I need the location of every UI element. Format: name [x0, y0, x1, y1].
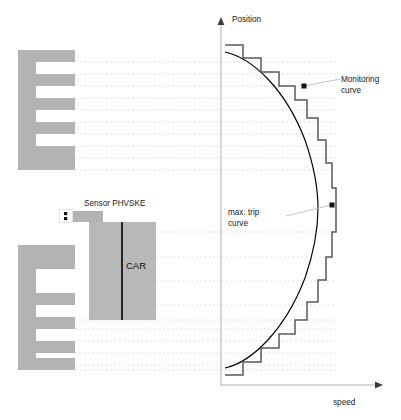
position-axis-label: Position	[232, 15, 262, 24]
max-trip-curve-label-line2: curve	[228, 219, 248, 228]
comb-tooth	[18, 245, 75, 269]
upper-shaft-comb	[18, 50, 75, 170]
comb-tooth	[18, 122, 75, 134]
callout-marker-icon	[330, 203, 335, 208]
comb-tooth	[18, 50, 75, 62]
comb-tooth	[18, 293, 75, 305]
monitoring-curve-callout: Monitoring curve	[302, 75, 380, 95]
sensor-label: Sensor PHVSKE	[84, 199, 146, 208]
comb-tooth	[18, 74, 75, 86]
sensor-assembly	[60, 210, 104, 223]
sensor-box	[60, 210, 73, 223]
monitoring-curve-label-line1: Monitoring	[341, 75, 380, 84]
monitoring-curve-label-line2: curve	[341, 86, 361, 95]
callout-marker-icon	[302, 84, 307, 89]
speed-axis-label: speed	[333, 398, 356, 407]
comb-tooth	[18, 341, 75, 353]
callout-leader-line	[304, 79, 340, 86]
comb-tooth	[18, 317, 75, 329]
lower-shaft-comb	[18, 245, 75, 370]
comb-tooth	[18, 98, 75, 110]
car-label: CAR	[126, 260, 146, 271]
sensor-dot-upper-icon	[64, 212, 67, 215]
speed-axis-arrowhead-icon	[375, 382, 383, 389]
gridlines	[75, 62, 336, 370]
sensor-bar	[73, 211, 103, 222]
callout-leader-line	[286, 205, 331, 216]
elevator-car	[89, 222, 156, 320]
position-axis-arrowhead-icon	[218, 17, 225, 25]
comb-tooth	[18, 146, 75, 170]
comb-tooth	[18, 358, 75, 370]
elevator-monitoring-diagram: Monitoring curve max. trip curve Positio…	[0, 0, 401, 420]
max-trip-curve-label-line1: max. trip	[228, 208, 260, 217]
sensor-dot-lower-icon	[64, 217, 67, 220]
diagram-root: Monitoring curve max. trip curve Positio…	[0, 0, 401, 420]
